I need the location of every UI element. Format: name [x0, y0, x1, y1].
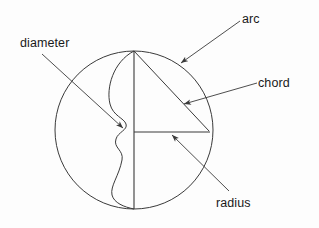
arc-leader-arrow: [181, 21, 240, 63]
chord-line: [134, 51, 209, 131]
label-radius: radius: [216, 196, 251, 210]
chord-leader-arrow: [184, 83, 257, 104]
diagram-canvas: arc chord diameter radius: [0, 0, 319, 228]
label-chord: chord: [258, 76, 290, 90]
circle-diagram-svg: [0, 0, 319, 228]
label-diameter: diameter: [20, 36, 69, 50]
radius-leader-arrow: [172, 135, 229, 191]
label-arc: arc: [242, 12, 260, 26]
arc-curve: [109, 51, 134, 209]
diameter-leader-arrow: [42, 54, 123, 128]
